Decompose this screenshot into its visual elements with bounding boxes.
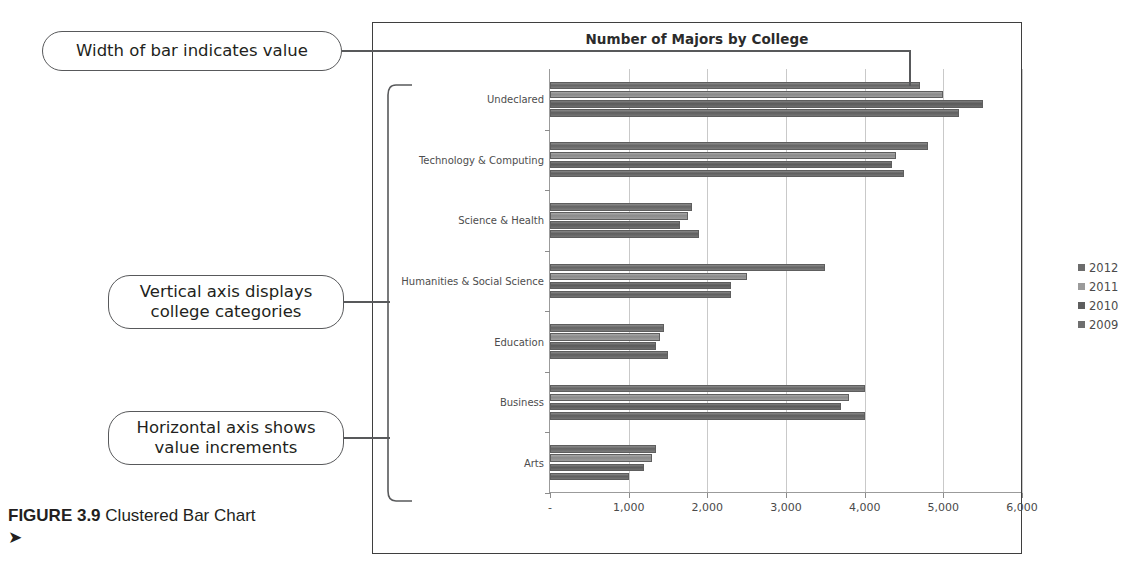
legend-swatch bbox=[1078, 264, 1085, 271]
callout-leader-3 bbox=[344, 437, 390, 439]
bar-2012[interactable] bbox=[550, 324, 664, 332]
legend-entry[interactable]: 2009 bbox=[1078, 315, 1118, 334]
callout-width-of-bar: Width of bar indicates value bbox=[42, 31, 342, 71]
bar-2011[interactable] bbox=[550, 91, 943, 99]
x-tick-label: 4,000 bbox=[849, 501, 881, 514]
legend-label: 2009 bbox=[1089, 318, 1118, 332]
chart-frame: Number of Majors by College UndeclaredTe… bbox=[372, 22, 1022, 554]
callout-leader-2 bbox=[344, 301, 390, 303]
legend-swatch bbox=[1078, 321, 1085, 328]
bar-2012[interactable] bbox=[550, 203, 692, 211]
legend-entry[interactable]: 2011 bbox=[1078, 277, 1118, 296]
x-tick-mark bbox=[550, 493, 551, 498]
bar-2011[interactable] bbox=[550, 212, 688, 220]
callout-leader-1-drop bbox=[909, 50, 911, 86]
x-tick-mark bbox=[1022, 493, 1023, 498]
bar-2010[interactable] bbox=[550, 282, 731, 290]
x-tick-label: 2,000 bbox=[692, 501, 724, 514]
x-tick-mark bbox=[786, 493, 787, 498]
bar-2011[interactable] bbox=[550, 454, 652, 462]
category-group: Humanities & Social Science bbox=[550, 251, 1021, 312]
x-tick-mark bbox=[943, 493, 944, 498]
category-group: Business bbox=[550, 372, 1021, 433]
bar-2012[interactable] bbox=[550, 445, 656, 453]
plot-area: UndeclaredTechnology & ComputingScience … bbox=[549, 69, 1021, 493]
bar-2010[interactable] bbox=[550, 403, 841, 411]
category-group: Education bbox=[550, 311, 1021, 372]
y-axis-category-label: Undeclared bbox=[487, 94, 544, 105]
y-axis-category-label: Technology & Computing bbox=[419, 154, 544, 165]
bar-2012[interactable] bbox=[550, 264, 825, 272]
category-group: Undeclared bbox=[550, 69, 1021, 130]
callout-leader-1 bbox=[342, 50, 910, 52]
bar-2012[interactable] bbox=[550, 385, 865, 393]
bar-2011[interactable] bbox=[550, 152, 896, 160]
axis-bracket bbox=[386, 83, 416, 503]
x-tick-label: 1,000 bbox=[613, 501, 645, 514]
bar-2011[interactable] bbox=[550, 333, 660, 341]
bar-2010[interactable] bbox=[550, 161, 892, 169]
legend-swatch bbox=[1078, 302, 1085, 309]
figure-label: FIGURE 3.9 bbox=[8, 506, 101, 525]
bar-2011[interactable] bbox=[550, 394, 849, 402]
chart-title: Number of Majors by College bbox=[373, 31, 1021, 47]
x-tick-label: 5,000 bbox=[928, 501, 960, 514]
figure-caption: FIGURE 3.9 Clustered Bar Chart ➤ bbox=[8, 505, 268, 549]
legend-entry[interactable]: 2012 bbox=[1078, 258, 1118, 277]
legend-label: 2012 bbox=[1089, 261, 1118, 275]
legend-swatch bbox=[1078, 283, 1085, 290]
bar-2012[interactable] bbox=[550, 82, 920, 90]
x-tick-label: 3,000 bbox=[770, 501, 802, 514]
bar-2009[interactable] bbox=[550, 230, 699, 238]
x-tick-mark bbox=[707, 493, 708, 498]
x-tick-label: 6,000 bbox=[1006, 501, 1038, 514]
bar-2009[interactable] bbox=[550, 412, 865, 420]
y-axis-category-label: Business bbox=[500, 397, 544, 408]
bar-2009[interactable] bbox=[550, 351, 668, 359]
bar-2010[interactable] bbox=[550, 342, 656, 350]
x-tick-mark bbox=[629, 493, 630, 498]
callout-vertical-axis: Vertical axis displays college categorie… bbox=[108, 275, 344, 329]
x-tick-mark bbox=[865, 493, 866, 498]
bar-2010[interactable] bbox=[550, 221, 680, 229]
y-axis-category-label: Science & Health bbox=[458, 215, 544, 226]
legend-label: 2010 bbox=[1089, 299, 1118, 313]
bar-2012[interactable] bbox=[550, 142, 928, 150]
gridline bbox=[1022, 69, 1023, 493]
y-axis-category-label: Education bbox=[494, 336, 544, 347]
bar-2009[interactable] bbox=[550, 109, 959, 117]
category-group: Technology & Computing bbox=[550, 130, 1021, 191]
bar-2009[interactable] bbox=[550, 291, 731, 299]
legend-entry[interactable]: 2010 bbox=[1078, 296, 1118, 315]
x-tick-label: - bbox=[548, 501, 552, 514]
bar-2010[interactable] bbox=[550, 464, 644, 472]
legend-label: 2011 bbox=[1089, 280, 1118, 294]
y-axis-category-label: Humanities & Social Science bbox=[401, 275, 544, 286]
chart-legend: 2012201120102009 bbox=[1078, 258, 1118, 334]
y-axis-category-label: Arts bbox=[524, 457, 544, 468]
category-group: Arts bbox=[550, 432, 1021, 493]
bar-2011[interactable] bbox=[550, 273, 747, 281]
bar-2009[interactable] bbox=[550, 170, 904, 178]
category-group: Science & Health bbox=[550, 190, 1021, 251]
bar-2010[interactable] bbox=[550, 100, 983, 108]
bar-2009[interactable] bbox=[550, 473, 629, 481]
callout-horizontal-axis: Horizontal axis shows value increments bbox=[108, 411, 344, 465]
